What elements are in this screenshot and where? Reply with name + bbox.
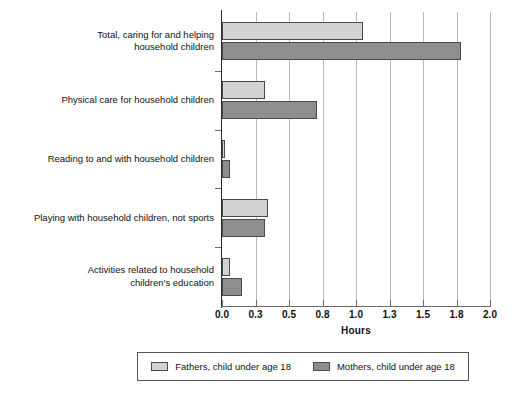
bar-chart: Total, caring for and helping household … — [0, 0, 515, 395]
bar-fathers — [222, 22, 363, 40]
legend-item-fathers: Fathers, child under age 18 — [151, 361, 291, 372]
x-axis-tick — [423, 300, 424, 307]
category-label: Playing with household children, not spo… — [0, 212, 214, 225]
gridline — [490, 12, 491, 306]
legend-label-mothers: Mothers, child under age 18 — [337, 361, 455, 372]
x-axis-tick — [457, 300, 458, 307]
plot-area — [222, 12, 490, 306]
x-axis-tick — [356, 300, 357, 307]
category-label: Reading to and with household children — [0, 153, 214, 166]
bar-fathers — [222, 81, 265, 99]
x-axis-tick — [289, 300, 290, 307]
bar-mothers — [222, 219, 265, 237]
bar-fathers — [222, 199, 268, 217]
x-axis-tick — [490, 300, 491, 307]
y-axis-tick — [215, 247, 221, 248]
x-axis-tick — [323, 300, 324, 307]
category-label: Physical care for household children — [0, 94, 214, 107]
x-tick-label: 2.0 — [470, 309, 510, 320]
bar-mothers — [222, 42, 461, 60]
bar-fathers — [222, 258, 230, 276]
y-axis-tick — [215, 130, 221, 131]
bar-mothers — [222, 160, 230, 178]
chart-legend: Fathers, child under age 18 Mothers, chi… — [137, 352, 469, 381]
legend-swatch-mothers-icon — [313, 362, 330, 371]
category-label: Total, caring for and helping household … — [0, 29, 214, 54]
category-label: Activities related to household children… — [0, 264, 214, 289]
legend-swatch-fathers-icon — [151, 362, 168, 371]
bar-mothers — [222, 101, 317, 119]
y-axis-tick — [215, 71, 221, 72]
y-axis-line — [221, 10, 222, 308]
x-axis-tick — [256, 300, 257, 307]
x-axis-tick — [390, 300, 391, 307]
x-axis-title: Hours — [222, 325, 490, 336]
bar-mothers — [222, 278, 242, 296]
y-axis-tick — [215, 188, 221, 189]
bar-fathers — [222, 140, 225, 158]
legend-label-fathers: Fathers, child under age 18 — [175, 361, 291, 372]
legend-item-mothers: Mothers, child under age 18 — [313, 361, 455, 372]
x-axis-tick — [222, 300, 223, 307]
